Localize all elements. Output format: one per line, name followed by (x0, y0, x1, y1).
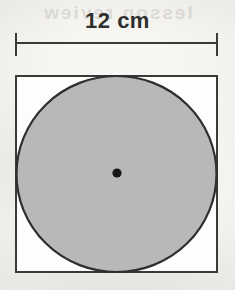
center-dot (112, 168, 121, 177)
geometry-figure: lesson review 12 cm (0, 0, 235, 290)
width-dimension (16, 33, 217, 56)
figure-canvas (0, 0, 235, 290)
dimension-label: 12 cm (0, 8, 235, 34)
